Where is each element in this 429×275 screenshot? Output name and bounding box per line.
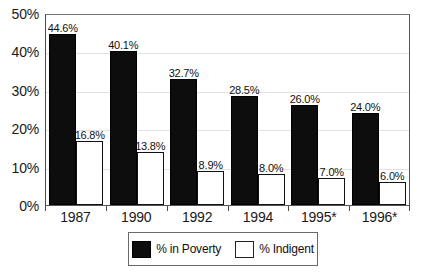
x-axis-labels: 1987 1990 1992 1994 1995* 1996* — [45, 209, 410, 225]
y-axis: 50% 40% 30% 20% 10% 0% — [0, 14, 42, 206]
bar-indigent-1990: 13.8% — [137, 152, 164, 205]
y-tick-label: 0% — [19, 199, 39, 213]
bar-value-label: 8.9% — [199, 159, 223, 171]
bar-poverty-1996: 24.0% — [352, 113, 379, 205]
bar-groups: 44.6% 16.8% 40.1% 13.8% — [46, 15, 409, 205]
bar-group-1996: 24.0% 6.0% — [349, 15, 410, 205]
y-tick-label: 50% — [12, 7, 39, 21]
x-label-1992: 1992 — [167, 209, 228, 225]
bar-value-label: 13.8% — [135, 140, 165, 152]
bar-value-label: 7.0% — [320, 166, 344, 178]
y-tick-label: 30% — [12, 84, 39, 98]
bar-poverty-1990: 40.1% — [110, 51, 137, 205]
bar-value-label: 40.1% — [108, 39, 138, 51]
legend-label-indigent: % Indigent — [259, 243, 314, 256]
bar-group-1992: 32.7% 8.9% — [167, 15, 228, 205]
bar-poverty-1995: 26.0% — [291, 105, 318, 205]
bar-indigent-1995: 7.0% — [318, 178, 345, 205]
bar-indigent-1992: 8.9% — [197, 171, 224, 205]
x-label-1996: 1996* — [349, 209, 410, 225]
bar-group-1994: 28.5% 8.0% — [228, 15, 289, 205]
bar-value-label: 24.0% — [350, 101, 380, 113]
bar-group-1995: 26.0% 7.0% — [288, 15, 349, 205]
bar-indigent-1996: 6.0% — [379, 182, 406, 205]
bar-indigent-1987: 16.8% — [76, 141, 103, 206]
x-label-1994: 1994 — [227, 209, 288, 225]
bar-poverty-1987: 44.6% — [49, 34, 76, 205]
bar-poverty-1994: 28.5% — [231, 96, 258, 205]
bar-value-label: 32.7% — [169, 67, 199, 79]
x-label-1987: 1987 — [45, 209, 106, 225]
bar-group-1987: 44.6% 16.8% — [46, 15, 107, 205]
x-label-1995: 1995* — [288, 209, 349, 225]
bar-value-label: 8.0% — [259, 162, 283, 174]
legend-item-indigent: % Indigent — [235, 241, 314, 258]
plot-area: 44.6% 16.8% 40.1% 13.8% — [45, 14, 410, 206]
bar-indigent-1994: 8.0% — [258, 174, 285, 205]
bar-value-label: 28.5% — [229, 84, 259, 96]
bar-value-label: 26.0% — [290, 93, 320, 105]
bar-value-label: 16.8% — [75, 129, 105, 141]
y-tick-label: 20% — [12, 122, 39, 136]
chart-legend: % in Poverty % Indigent — [128, 232, 318, 266]
x-label-1990: 1990 — [106, 209, 167, 225]
legend-label-poverty: % in Poverty — [156, 243, 221, 256]
y-tick-label: 40% — [12, 45, 39, 59]
legend-swatch-indigent-icon — [235, 241, 254, 258]
y-tick-label: 10% — [12, 161, 39, 175]
bar-value-label: 6.0% — [380, 170, 404, 182]
poverty-indigent-bar-chart: 50% 40% 30% 20% 10% 0% 44.6% 16.8% — [0, 0, 429, 275]
legend-swatch-poverty-icon — [132, 241, 151, 258]
bar-poverty-1992: 32.7% — [170, 79, 197, 205]
bar-group-1990: 40.1% 13.8% — [107, 15, 168, 205]
legend-item-poverty: % in Poverty — [132, 241, 221, 258]
bar-value-label: 44.6% — [48, 22, 78, 34]
